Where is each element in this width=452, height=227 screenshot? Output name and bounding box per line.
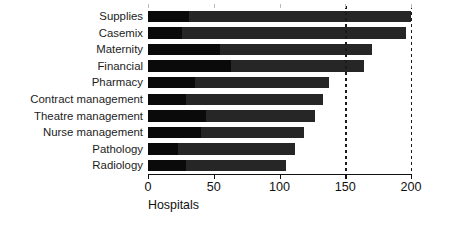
category-label-contract-management: Contract management — [0, 91, 143, 108]
axis-line — [148, 174, 411, 175]
bar-row — [148, 141, 411, 158]
bar-row — [148, 157, 411, 174]
axis-tick-top — [148, 4, 149, 8]
stacked-bar[interactable] — [148, 44, 372, 55]
axis-tick-top — [280, 4, 281, 8]
stacked-bar[interactable] — [148, 60, 364, 71]
bar-segment-2 — [186, 160, 286, 171]
bar-row — [148, 41, 411, 58]
bar-segment-2 — [201, 127, 305, 138]
axis-tick-label: 50 — [207, 180, 221, 194]
category-label-pathology: Pathology — [0, 141, 143, 158]
bar-segment-1 — [148, 60, 231, 71]
gridline — [411, 6, 412, 178]
bar-row — [148, 58, 411, 75]
bar-segment-2 — [231, 60, 364, 71]
stacked-bar[interactable] — [148, 143, 295, 154]
axis-tick-label: 0 — [144, 180, 151, 194]
bar-row — [148, 74, 411, 91]
bar-segment-1 — [148, 143, 178, 154]
category-label-nurse-management: Nurse management — [0, 124, 143, 141]
axis-tick-top — [214, 4, 215, 8]
category-label-casemix: Casemix — [0, 25, 143, 42]
axis-tick-top — [345, 4, 346, 8]
bar-row — [148, 124, 411, 141]
bar-segment-2 — [206, 110, 315, 121]
bar-segment-1 — [148, 127, 201, 138]
bar-segment-2 — [195, 77, 329, 88]
bar-segment-2 — [186, 94, 323, 105]
stacked-bar[interactable] — [148, 127, 304, 138]
category-label-theatre-management: Theatre management — [0, 108, 143, 125]
category-label-radiology: Radiology — [0, 157, 143, 174]
stacked-bar[interactable] — [148, 77, 329, 88]
category-label-pharmacy: Pharmacy — [0, 74, 143, 91]
bar-segment-1 — [148, 94, 186, 105]
bar-segment-2 — [189, 11, 411, 22]
stacked-bar[interactable] — [148, 27, 406, 38]
stacked-bar[interactable] — [148, 11, 411, 22]
plot-area — [148, 8, 411, 174]
bar-segment-2 — [220, 44, 371, 55]
bar-segment-1 — [148, 77, 195, 88]
bar-segment-1 — [148, 110, 206, 121]
stacked-bar[interactable] — [148, 94, 323, 105]
bar-row — [148, 91, 411, 108]
gridline — [345, 6, 346, 178]
axis-tick-label: 100 — [269, 180, 290, 194]
bar-segment-1 — [148, 27, 182, 38]
axis-tick-label: 150 — [335, 180, 356, 194]
bar-segment-1 — [148, 11, 189, 22]
bar-chart: Supplies Casemix Maternity Financial Pha… — [0, 0, 452, 227]
x-axis-title: Hospitals — [148, 198, 199, 212]
stacked-bar[interactable] — [148, 110, 315, 121]
axis-tick — [411, 174, 412, 179]
category-axis-labels: Supplies Casemix Maternity Financial Pha… — [0, 8, 143, 174]
stacked-bar[interactable] — [148, 160, 286, 171]
bar-row — [148, 25, 411, 42]
category-label-supplies: Supplies — [0, 8, 143, 25]
bar-row — [148, 108, 411, 125]
bar-row — [148, 8, 411, 25]
bar-segment-1 — [148, 160, 186, 171]
bar-segment-2 — [178, 143, 295, 154]
category-label-maternity: Maternity — [0, 41, 143, 58]
bar-segment-1 — [148, 44, 220, 55]
axis-tick-top — [411, 4, 412, 8]
axis-tick-label: 200 — [400, 180, 421, 194]
category-label-financial: Financial — [0, 58, 143, 75]
bar-segment-2 — [182, 27, 406, 38]
